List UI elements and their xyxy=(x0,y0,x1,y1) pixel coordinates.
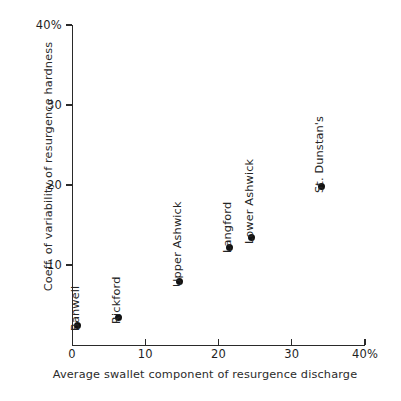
y-axis-title: Coeff. of variability of resurgence hard… xyxy=(42,42,55,292)
scatter-plot: Coeff. of variability of resurgence hard… xyxy=(0,0,401,401)
x-tick-mark xyxy=(291,339,292,345)
x-tick-mark xyxy=(364,339,365,345)
y-tick-mark xyxy=(66,24,72,25)
y-tick-mark xyxy=(66,264,72,265)
x-axis-title: Average swallet component of resurgence … xyxy=(40,368,370,381)
data-point-label: Lower Ashwick xyxy=(243,159,256,244)
x-tick-label: 40% xyxy=(342,347,388,361)
y-tick-label: 40% xyxy=(20,18,62,32)
y-tick-label: 20 xyxy=(20,178,62,192)
y-tick-mark xyxy=(66,104,72,105)
x-tick-mark xyxy=(218,339,219,345)
x-tick-label: 0 xyxy=(49,347,95,361)
data-point-label: St. Dunstan's xyxy=(313,115,326,192)
data-point-label: Langford xyxy=(221,202,234,253)
y-tick-mark xyxy=(66,184,72,185)
data-point-label: Rickford xyxy=(110,276,123,323)
x-tick-label: 30 xyxy=(269,347,315,361)
data-point-label: Upper Ashwick xyxy=(171,201,184,287)
data-point-label: Banwell xyxy=(69,286,82,331)
x-tick-label: 20 xyxy=(196,347,242,361)
x-tick-mark xyxy=(145,339,146,345)
y-tick-label: 30 xyxy=(20,98,62,112)
y-tick-label: 10 xyxy=(20,258,62,272)
x-tick-label: 10 xyxy=(122,347,168,361)
